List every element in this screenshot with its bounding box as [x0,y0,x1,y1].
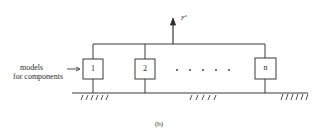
force-arrowhead [171,18,176,25]
component-label-2: 2 [135,64,155,73]
component-label-n: n [256,63,276,72]
force-label-superscript: a [185,13,187,18]
ground-hatch-right [281,94,308,100]
side-label-line2: for components [13,72,63,81]
ellipsis-dots [176,69,230,71]
force-label: Fa [181,11,187,23]
ground-hatch-middle [190,95,216,100]
component-label-1: 1 [83,64,103,73]
side-label-line1: models [20,63,43,72]
ground-hatch-left [81,95,108,100]
figure-caption: (b) [155,120,163,129]
